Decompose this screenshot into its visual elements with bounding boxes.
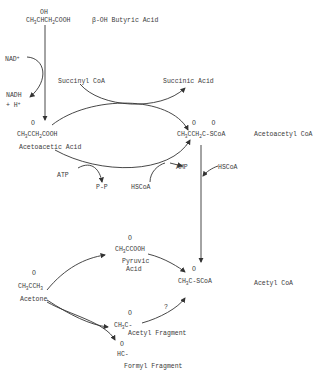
h-plus-label: + H+: [6, 100, 20, 109]
amp-label: AMP: [176, 164, 188, 171]
acetyl-coa-o: O: [192, 266, 196, 273]
ppi-label: P-P: [96, 184, 108, 191]
formyl-fragment-o: O: [120, 341, 124, 348]
nadh-label: NADH: [6, 92, 22, 99]
pyruvic-o: O: [128, 235, 132, 242]
hscoa-label-1: HSCoA: [131, 184, 151, 191]
hydroxybutyric-name: β-OH Butyric Acid: [92, 17, 158, 24]
acetoacetic-o: O: [31, 120, 35, 127]
acetyl-fragment-name: Acetyl Fragment: [128, 330, 187, 337]
unknown-step-mark: ?: [164, 304, 168, 311]
acetoacetyl-coa-name: Acetoacetyl CoA: [254, 131, 313, 138]
acetyl-coa-formula: CH3C-SCoA: [178, 278, 212, 287]
succinyl-coa-label: Succinyl CoA: [58, 78, 105, 85]
formyl-fragment-formula: HC-: [117, 351, 129, 358]
acetyl-fragment-o: O: [128, 310, 132, 317]
succinic-acid-label: Succinic Acid: [163, 78, 214, 85]
atp-label: ATP: [57, 172, 69, 179]
acetyl-coa-name: Acetyl CoA: [254, 280, 293, 287]
acetone-name: Acetone: [20, 296, 47, 303]
hydroxybutyric-formula: CH3CHCH2COOH: [26, 17, 70, 26]
acetoacetyl-coa-o: O O: [192, 120, 215, 127]
hydroxybutyric-oh: OH: [40, 9, 48, 16]
acetone-o: O: [32, 270, 36, 277]
pyruvic-formula: CH3CCOOH: [115, 246, 145, 255]
pathway-arrows: [0, 0, 320, 371]
nad-label: NAD+: [5, 54, 19, 63]
hscoa-label-2: HSCoA: [218, 164, 238, 171]
acetone-formula: CH3CCH3: [18, 283, 43, 292]
acetoacetic-name: Acetoacetic Acid: [19, 144, 81, 151]
pyruvic-name-1: Pyruvic: [122, 258, 149, 265]
pyruvic-name-2: Acid: [126, 266, 142, 273]
formyl-fragment-name: Formyl Fragment: [124, 363, 183, 370]
acetoacetic-formula: CH3CCH2COOH: [17, 131, 58, 140]
acetoacetyl-coa-formula: CH3CCH2C-SCoA: [177, 131, 225, 140]
